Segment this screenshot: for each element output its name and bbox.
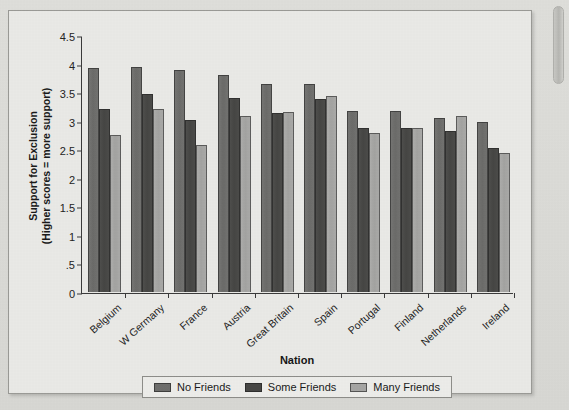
y-axis-tick-label: .5 — [66, 260, 75, 271]
legend-swatch-icon — [245, 383, 262, 392]
bar — [142, 94, 153, 292]
x-axis-tick-mark — [514, 293, 515, 298]
x-axis-category-label: France — [178, 302, 209, 332]
bar — [99, 109, 110, 292]
legend-item[interactable]: Many Friends — [350, 381, 440, 393]
bar — [412, 128, 423, 292]
x-axis-category-label: Portugal — [346, 302, 382, 336]
bar-group — [385, 37, 428, 292]
y-axis-tick-mark — [77, 265, 82, 266]
x-axis-category-label: Finland — [392, 302, 425, 333]
bar — [272, 113, 283, 292]
bar — [326, 96, 337, 292]
vertical-scrollbar-thumb[interactable] — [553, 6, 564, 84]
bar-group — [83, 37, 126, 292]
bar — [88, 68, 99, 292]
bar-group — [256, 37, 299, 292]
bars-layer — [83, 37, 513, 292]
y-axis-tick-mark — [77, 122, 82, 123]
legend-swatch-icon — [154, 383, 171, 392]
legend-item-label: Many Friends — [373, 381, 440, 393]
y-axis-tick-mark — [77, 236, 82, 237]
y-axis-title: Support for Exclusion (Higher scores = m… — [25, 37, 55, 294]
y-axis-tick-mark — [77, 37, 82, 38]
bar — [456, 116, 467, 292]
chart-legend: No FriendsSome FriendsMany Friends — [142, 376, 452, 398]
y-axis-tick-label: 0 — [69, 289, 75, 300]
legend-item[interactable]: Some Friends — [245, 381, 336, 393]
bar-group — [299, 37, 342, 292]
x-axis-category-label: W Germany — [117, 302, 166, 347]
bar — [347, 111, 358, 292]
bar — [477, 122, 488, 292]
y-axis-tick-label: 2.5 — [60, 146, 75, 157]
bar — [434, 118, 445, 292]
x-axis-category-label: Spain — [312, 302, 339, 328]
x-axis-category-label: Ireland — [480, 302, 511, 331]
x-axis-category-labels: BelgiumW GermanyFranceAustriaGreat Brita… — [81, 294, 513, 354]
bar — [153, 109, 164, 292]
y-axis-tick-label: 3.5 — [60, 89, 75, 100]
bar — [174, 70, 185, 292]
bar — [218, 75, 229, 292]
y-axis-tick-mark — [77, 179, 82, 180]
legend-item[interactable]: No Friends — [154, 381, 231, 393]
bar — [131, 67, 142, 292]
bar — [499, 153, 510, 292]
bar — [488, 148, 499, 292]
bar-group — [213, 37, 256, 292]
document-page: Support for Exclusion (Higher scores = m… — [0, 0, 569, 410]
bar — [240, 116, 251, 292]
bar — [445, 131, 456, 292]
y-axis-title-line-2: (Higher scores = more support) — [40, 87, 53, 244]
legend-item-label: Some Friends — [268, 381, 336, 393]
plot-area: 0.511.522.533.544.5 — [81, 37, 513, 294]
bar-group — [472, 37, 515, 292]
y-axis-tick-label: 1.5 — [60, 203, 75, 214]
bar-group — [126, 37, 169, 292]
vertical-scrollbar-track[interactable] — [554, 0, 567, 410]
y-axis-tick-mark — [77, 65, 82, 66]
y-axis-tick-label: 4 — [69, 60, 75, 71]
bar-group — [169, 37, 212, 292]
bar — [196, 145, 207, 292]
bar — [315, 99, 326, 292]
chart-figure-frame: Support for Exclusion (Higher scores = m… — [8, 10, 532, 394]
x-axis-category-label: Belgium — [87, 302, 122, 335]
x-axis-category-label: Austria — [221, 302, 252, 332]
bar — [110, 135, 121, 292]
y-axis-tick-label: 3 — [69, 117, 75, 128]
bar — [401, 128, 412, 292]
bar — [229, 98, 240, 292]
legend-item-label: No Friends — [177, 381, 231, 393]
bar-group — [342, 37, 385, 292]
y-axis-tick-label: 1 — [69, 231, 75, 242]
y-axis-tick-label: 4.5 — [60, 32, 75, 43]
bar — [185, 120, 196, 292]
y-axis-title-line-1: Support for Exclusion — [27, 87, 40, 244]
legend-swatch-icon — [350, 383, 367, 392]
x-axis-title: Nation — [81, 354, 513, 366]
y-axis-tick-label: 2 — [69, 174, 75, 185]
bar — [358, 128, 369, 292]
y-axis-tick-mark — [77, 151, 82, 152]
bar — [283, 112, 294, 292]
bar — [261, 84, 272, 292]
x-axis-category-label: Netherlands — [419, 302, 468, 348]
y-axis-tick-mark — [77, 94, 82, 95]
bar — [369, 133, 380, 292]
bar — [390, 111, 401, 292]
bar — [304, 84, 315, 292]
bar-group — [429, 37, 472, 292]
y-axis-tick-mark — [77, 208, 82, 209]
